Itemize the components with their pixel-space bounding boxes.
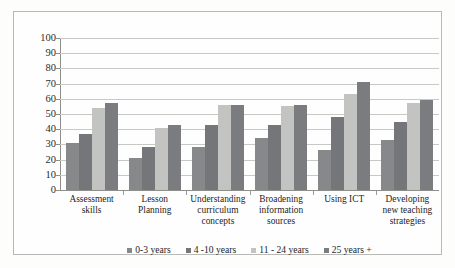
y-tick-label-40: 40 xyxy=(26,124,56,134)
y-tick-label-60: 60 xyxy=(26,94,56,104)
x-axis-label-line: Using ICT xyxy=(313,194,376,205)
x-axis-label-line: concepts xyxy=(186,216,249,227)
y-axis-tick-labels: 1009080706050403020100 xyxy=(22,38,56,190)
bar xyxy=(344,94,357,190)
y-tick-label-50: 50 xyxy=(26,109,56,119)
bar xyxy=(281,106,294,190)
x-axis-label-line: information xyxy=(250,205,313,216)
legend-label: 0-3 years xyxy=(135,245,170,255)
x-axis-label-line: curriculum xyxy=(186,205,249,216)
bar xyxy=(255,138,268,190)
bar xyxy=(231,105,244,190)
legend-swatch-icon xyxy=(324,248,329,253)
bar xyxy=(79,134,92,190)
x-axis-label: Broadeninginformationsources xyxy=(250,194,313,228)
y-tick-label-0: 0 xyxy=(26,185,56,195)
y-tick-label-30: 30 xyxy=(26,139,56,149)
bar xyxy=(168,125,181,190)
x-axis-label: LessonPlanning xyxy=(123,194,186,216)
chart-frame: 1009080706050403020100 AssessmentskillsL… xyxy=(13,11,442,255)
bar xyxy=(129,158,142,190)
bar xyxy=(357,82,370,190)
x-axis-label-line: Broadening xyxy=(250,194,313,205)
bar xyxy=(142,147,155,190)
bar xyxy=(105,103,118,190)
x-axis-label-line: Planning xyxy=(123,205,186,216)
bar-group xyxy=(250,38,313,190)
legend-item[interactable]: 11 - 24 years xyxy=(251,245,308,255)
legend-label: 4 -10 years xyxy=(194,245,237,255)
chart-figure: 1009080706050403020100 AssessmentskillsL… xyxy=(0,0,455,268)
x-axis-label-line: Understanding xyxy=(186,194,249,205)
x-axis-category-labels: AssessmentskillsLessonPlanningUnderstand… xyxy=(60,194,439,240)
bar-group xyxy=(376,38,439,190)
y-tick-label-100: 100 xyxy=(26,33,56,43)
x-axis-label-line: strategies xyxy=(376,216,439,227)
x-axis-label-line: Lesson xyxy=(123,194,186,205)
bar-group xyxy=(186,38,249,190)
x-axis-label-line: new teaching xyxy=(376,205,439,216)
bar xyxy=(381,140,394,190)
legend-swatch-icon xyxy=(127,248,132,253)
bar xyxy=(205,125,218,190)
bar xyxy=(218,105,231,190)
bar xyxy=(192,147,205,190)
legend-swatch-icon xyxy=(251,248,256,253)
bar xyxy=(420,100,433,190)
bar xyxy=(155,128,168,190)
bar xyxy=(318,150,331,190)
x-axis-label-line: skills xyxy=(60,205,123,216)
y-tick-label-80: 80 xyxy=(26,63,56,73)
bar xyxy=(92,108,105,190)
legend-label: 11 - 24 years xyxy=(259,245,308,255)
y-tick-label-70: 70 xyxy=(26,79,56,89)
y-tick-label-20: 20 xyxy=(26,155,56,165)
x-axis-label: Using ICT xyxy=(313,194,376,205)
bar xyxy=(331,117,344,190)
x-axis-label: Developingnew teachingstrategies xyxy=(376,194,439,228)
bar xyxy=(294,105,307,190)
y-tick-label-90: 90 xyxy=(26,48,56,58)
legend-swatch-icon xyxy=(186,248,191,253)
legend-item[interactable]: 25 years + xyxy=(324,245,372,255)
bar-group xyxy=(60,38,123,190)
bar xyxy=(268,125,281,190)
bar xyxy=(394,122,407,190)
legend-label: 25 years + xyxy=(332,245,372,255)
chart-legend: 0-3 years4 -10 years11 - 24 years25 year… xyxy=(60,243,439,257)
x-axis-label-line: sources xyxy=(250,216,313,227)
x-axis-label: Assessmentskills xyxy=(60,194,123,216)
plot-area xyxy=(60,38,439,190)
x-axis-label-line: Assessment xyxy=(60,194,123,205)
bar-group xyxy=(313,38,376,190)
y-tick-label-10: 10 xyxy=(26,170,56,180)
x-axis-label: Understandingcurriculumconcepts xyxy=(186,194,249,228)
legend-item[interactable]: 0-3 years xyxy=(127,245,170,255)
bar xyxy=(66,143,79,190)
bar-group xyxy=(123,38,186,190)
bar xyxy=(407,103,420,190)
x-axis-label-line: Developing xyxy=(376,194,439,205)
legend-item[interactable]: 4 -10 years xyxy=(186,245,237,255)
